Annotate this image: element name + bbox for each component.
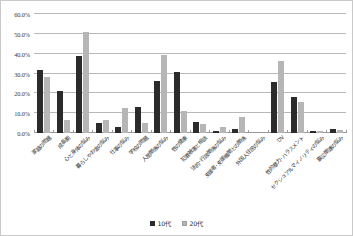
- x-axis-label: 仕事の悩み: [108, 134, 131, 157]
- bar-1-0: [44, 77, 50, 133]
- x-axis-labels: 家庭の問題成長期心と身体の悩み暮らしやお金の悩み仕事の悩み学校の問題人間関係の悩…: [34, 134, 346, 209]
- bar-1-8: [200, 124, 206, 133]
- y-tick-label: 60.0%: [14, 11, 30, 18]
- bar-0-2: [76, 56, 82, 133]
- bar-group: [229, 14, 249, 133]
- bar-group: [93, 14, 113, 133]
- bar-group: [34, 14, 54, 133]
- y-tick-label: 0.0%: [17, 130, 30, 137]
- bar-1-6: [161, 55, 167, 133]
- legend-swatch-icon: [150, 221, 155, 226]
- bar-0-13: [291, 97, 297, 133]
- bar-group: [73, 14, 93, 133]
- bar-0-12: [271, 82, 277, 133]
- x-axis-label: 成長期: [56, 134, 72, 150]
- bar-1-1: [64, 120, 70, 133]
- bar-0-10: [232, 129, 238, 133]
- bar-0-9: [213, 131, 219, 133]
- bar-1-14: [317, 131, 323, 133]
- legend-item-1[interactable]: 20代: [182, 219, 203, 228]
- x-tick-mark: [34, 130, 35, 133]
- bar-group: [190, 14, 210, 133]
- chart-figure: 0.0%10.0%20.0%30.0%40.0%50.0%60.0% 家庭の問題…: [0, 0, 353, 236]
- chart-legend: 10代20代: [1, 219, 352, 228]
- bar-1-12: [278, 61, 284, 133]
- bar-0-14: [310, 131, 316, 133]
- y-tick-label: 50.0%: [14, 30, 30, 37]
- bar-1-13: [298, 102, 304, 133]
- x-axis-label: DV: [275, 134, 285, 144]
- bar-group: [327, 14, 347, 133]
- plot-area: [34, 14, 346, 133]
- bar-0-8: [193, 122, 199, 133]
- legend-label: 20代: [190, 219, 204, 228]
- bar-0-6: [154, 81, 160, 133]
- legend-swatch-icon: [182, 221, 187, 226]
- y-tick-label: 40.0%: [14, 50, 30, 57]
- bar-1-9: [220, 127, 226, 133]
- bar-group: [54, 14, 74, 133]
- bar-0-5: [135, 107, 141, 133]
- bar-1-10: [239, 117, 245, 133]
- y-axis: 0.0%10.0%20.0%30.0%40.0%50.0%60.0%: [1, 14, 32, 133]
- y-tick-label: 30.0%: [14, 70, 30, 77]
- bar-1-5: [142, 123, 148, 133]
- bar-group: [151, 14, 171, 133]
- bar-0-4: [115, 127, 121, 133]
- bars-layer: [34, 14, 346, 133]
- legend-item-0[interactable]: 10代: [150, 219, 171, 228]
- bar-group: [171, 14, 191, 133]
- bar-group: [112, 14, 132, 133]
- bar-group: [132, 14, 152, 133]
- x-axis-label: 家庭の問題: [30, 134, 53, 157]
- x-tick-mark: [346, 130, 347, 133]
- bar-group: [288, 14, 308, 133]
- legend-label: 10代: [157, 219, 171, 228]
- bar-group: [210, 14, 230, 133]
- y-tick-label: 20.0%: [14, 90, 30, 97]
- bar-0-0: [37, 70, 43, 133]
- bar-1-7: [181, 111, 187, 133]
- bar-0-15: [330, 129, 336, 133]
- y-tick-label: 10.0%: [14, 110, 30, 117]
- bar-group: [268, 14, 288, 133]
- bar-1-4: [122, 108, 128, 133]
- bar-group: [249, 14, 269, 133]
- bar-1-15: [337, 130, 343, 133]
- bar-group: [307, 14, 327, 133]
- bar-1-2: [83, 32, 89, 133]
- bar-0-1: [57, 91, 63, 133]
- bar-0-3: [96, 123, 102, 133]
- bar-1-3: [103, 120, 109, 133]
- bar-0-7: [174, 72, 180, 133]
